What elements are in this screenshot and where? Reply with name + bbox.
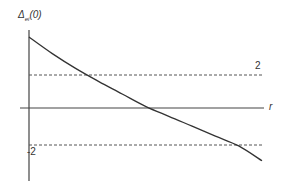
data-curve	[29, 37, 262, 161]
chart-plot-area	[0, 0, 290, 190]
